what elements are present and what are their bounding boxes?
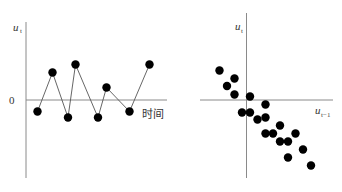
time-series-chart: u t 0 时间 [9,21,167,178]
right-y-axis-label-sub: t [241,27,243,35]
left-x-axis-label: 时间 [142,108,164,121]
zero-tick-label: 0 [9,94,15,106]
lag-scatter-chart: u t u t−1 [200,13,333,178]
residual-series-markers [33,60,153,121]
scatter-points [215,66,315,169]
figure: u t 0 时间 u t u t−1 [0,0,342,192]
left-y-axis-label-sub: t [20,27,22,35]
left-y-axis-label: u [13,21,19,33]
right-x-axis-label-sub: t−1 [321,111,331,119]
